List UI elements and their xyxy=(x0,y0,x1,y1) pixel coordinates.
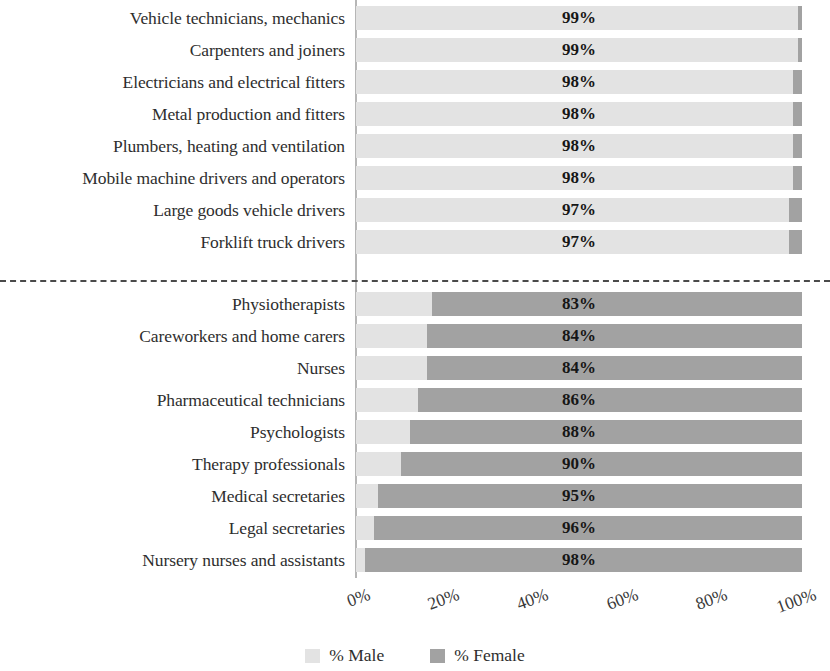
bar-row: Pharmaceutical technicians86% xyxy=(0,384,830,416)
bar-track: 84% xyxy=(356,324,802,348)
plot-area: Vehicle technicians, mechanics99%Carpent… xyxy=(0,0,830,580)
bar-row: Therapy professionals90% xyxy=(0,448,830,480)
bar-row-label: Plumbers, heating and ventilation xyxy=(0,130,345,162)
bar-row-label: Nurses xyxy=(0,352,345,384)
bar-value-label: 97% xyxy=(356,198,802,222)
bar-value-label: 86% xyxy=(356,388,802,412)
bar-row-label: Pharmaceutical technicians xyxy=(0,384,345,416)
bar-row-label: Careworkers and home carers xyxy=(0,320,345,352)
legend-label-male: % Male xyxy=(329,645,384,666)
bar-track: 97% xyxy=(356,198,802,222)
bar-value-label: 90% xyxy=(356,452,802,476)
bar-row-label: Physiotherapists xyxy=(0,288,345,320)
x-axis: 0%20%40%60%80%100% xyxy=(0,578,830,628)
bar-track: 98% xyxy=(356,134,802,158)
bar-track: 97% xyxy=(356,230,802,254)
bar-row-label: Large goods vehicle drivers xyxy=(0,194,345,226)
legend-label-female: % Female xyxy=(454,645,524,666)
bar-track: 98% xyxy=(356,70,802,94)
legend-swatch-male-icon xyxy=(305,649,320,663)
bar-row: Medical secretaries95% xyxy=(0,480,830,512)
bar-row-label: Metal production and fitters xyxy=(0,98,345,130)
bar-track: 90% xyxy=(356,452,802,476)
bar-value-label: 98% xyxy=(356,102,802,126)
legend-swatch-female-icon xyxy=(430,649,445,663)
bar-value-label: 95% xyxy=(356,484,802,508)
bar-row: Large goods vehicle drivers97% xyxy=(0,194,830,226)
bar-row-label: Mobile machine drivers and operators xyxy=(0,162,345,194)
bar-row: Nurses84% xyxy=(0,352,830,384)
bar-value-label: 98% xyxy=(356,548,802,572)
bar-value-label: 99% xyxy=(356,6,802,30)
bar-row: Vehicle technicians, mechanics99% xyxy=(0,2,830,34)
bar-value-label: 83% xyxy=(356,292,802,316)
bar-track: 99% xyxy=(356,6,802,30)
bar-row-label: Electricians and electrical fitters xyxy=(0,66,345,98)
bar-row: Metal production and fitters98% xyxy=(0,98,830,130)
bar-track: 88% xyxy=(356,420,802,444)
bar-value-label: 84% xyxy=(356,356,802,380)
bar-row-label: Therapy professionals xyxy=(0,448,345,480)
bar-value-label: 98% xyxy=(356,70,802,94)
bar-row-label: Vehicle technicians, mechanics xyxy=(0,2,345,34)
bar-row-label: Medical secretaries xyxy=(0,480,345,512)
bar-row: Nursery nurses and assistants98% xyxy=(0,544,830,576)
bar-track: 84% xyxy=(356,356,802,380)
bar-track: 98% xyxy=(356,102,802,126)
bar-track: 95% xyxy=(356,484,802,508)
bar-track: 98% xyxy=(356,166,802,190)
bar-value-label: 99% xyxy=(356,38,802,62)
bar-track: 96% xyxy=(356,516,802,540)
bar-row-label: Nursery nurses and assistants xyxy=(0,544,345,576)
bar-row: Mobile machine drivers and operators98% xyxy=(0,162,830,194)
bar-value-label: 97% xyxy=(356,230,802,254)
bar-row-label: Carpenters and joiners xyxy=(0,34,345,66)
bar-row-label: Legal secretaries xyxy=(0,512,345,544)
bar-value-label: 84% xyxy=(356,324,802,348)
bar-value-label: 98% xyxy=(356,166,802,190)
bar-row: Psychologists88% xyxy=(0,416,830,448)
bar-row: Careworkers and home carers84% xyxy=(0,320,830,352)
legend-item-female[interactable]: % Female xyxy=(430,645,524,666)
group-divider-line xyxy=(0,280,830,282)
legend-item-male[interactable]: % Male xyxy=(305,645,384,666)
bar-row: Electricians and electrical fitters98% xyxy=(0,66,830,98)
bar-row: Physiotherapists83% xyxy=(0,288,830,320)
bar-chart: Vehicle technicians, mechanics99%Carpent… xyxy=(0,0,830,671)
bar-track: 99% xyxy=(356,38,802,62)
bar-row: Carpenters and joiners99% xyxy=(0,34,830,66)
chart-legend: % Male % Female xyxy=(0,640,830,671)
bar-track: 98% xyxy=(356,548,802,572)
bar-track: 83% xyxy=(356,292,802,316)
bar-value-label: 96% xyxy=(356,516,802,540)
bar-row: Plumbers, heating and ventilation98% xyxy=(0,130,830,162)
bar-row-label: Psychologists xyxy=(0,416,345,448)
bar-value-label: 98% xyxy=(356,134,802,158)
bar-row: Legal secretaries96% xyxy=(0,512,830,544)
bar-row-label: Forklift truck drivers xyxy=(0,226,345,258)
bar-track: 86% xyxy=(356,388,802,412)
bar-row: Forklift truck drivers97% xyxy=(0,226,830,258)
bar-value-label: 88% xyxy=(356,420,802,444)
